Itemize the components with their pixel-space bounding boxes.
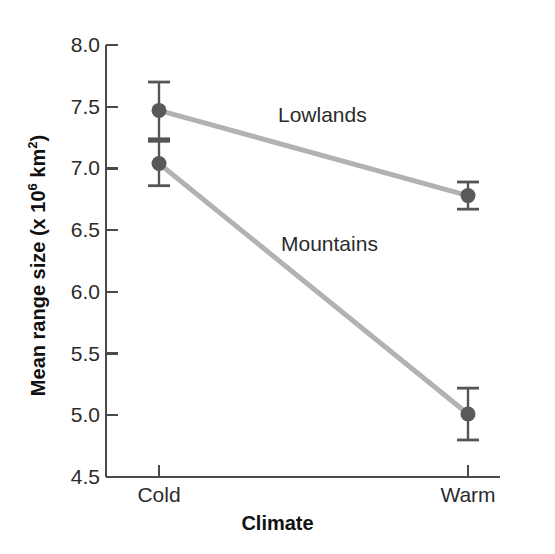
y-axis-tick-labels: 4.55.05.56.06.57.07.58.0 (50, 0, 100, 554)
y-axis-title-exponent: 6 (25, 183, 40, 190)
x-axis-title: Climate (0, 512, 555, 535)
y-tick-label-7.0: 7.0 (54, 157, 100, 178)
series-label-lowlands: Lowlands (278, 104, 367, 126)
y-tick-label-6.5: 6.5 (54, 219, 100, 240)
x-tick-label-warm: Warm (421, 484, 515, 506)
y-tick-label-8.0: 8.0 (54, 34, 100, 55)
y-tick-label-4.5: 4.5 (54, 466, 100, 487)
y-axis-title-unit-exponent: 2 (25, 142, 40, 149)
y-axis-title-unit: km (27, 149, 49, 183)
datapoint-mountains-warm (461, 407, 476, 422)
y-axis-title-tail: ) (27, 135, 49, 142)
y-tick-label-7.5: 7.5 (54, 96, 100, 117)
series-group (148, 82, 479, 440)
x-tick-label-cold: Cold (112, 484, 206, 506)
y-tick-label-6.0: 6.0 (54, 281, 100, 302)
y-tick-label-5.0: 5.0 (54, 404, 100, 425)
y-axis-title: Mean range size (x 106 km2) (27, 66, 50, 466)
series-line-mountains (159, 163, 468, 414)
y-axis-title-text: Mean range size (x 10 (27, 190, 49, 396)
datapoint-lowlands-warm (461, 188, 476, 203)
series-label-mountains: Mountains (281, 233, 378, 255)
datapoint-mountains-cold (152, 156, 167, 171)
datapoint-lowlands-cold (152, 103, 167, 118)
y-tick-label-5.5: 5.5 (54, 343, 100, 364)
figure-container: 4.55.05.56.06.57.07.58.0 Cold Warm Mean … (0, 0, 555, 554)
